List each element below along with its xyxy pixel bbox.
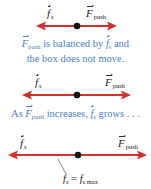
panel-1-friction-label: fs bbox=[47, 8, 54, 21]
caption-push-subscript: push bbox=[32, 113, 44, 120]
panel-2-friction-label: fs bbox=[35, 77, 42, 90]
force-diagrams bbox=[0, 0, 151, 189]
push-subscript: push bbox=[113, 82, 125, 89]
caption-friction-symbol: f bbox=[90, 108, 93, 120]
panel-3-max-friction-annotation: fs = fs max bbox=[63, 173, 98, 185]
panel-1-caption-line-2: the box does not move. bbox=[0, 53, 151, 65]
panel-3-arrows bbox=[8, 151, 147, 175]
caption-push-symbol: F bbox=[22, 38, 28, 50]
caption-push-subscript: push bbox=[28, 43, 40, 50]
panel-2-arrows bbox=[22, 91, 131, 100]
friction-symbol: f bbox=[47, 8, 50, 19]
friction-symbol: f bbox=[20, 138, 23, 149]
push-symbol: F bbox=[118, 138, 125, 149]
push-symbol: F bbox=[105, 77, 112, 88]
panel-1-push-label: Fpush bbox=[86, 8, 106, 21]
friction-subscript: s bbox=[39, 82, 42, 89]
push-symbol: F bbox=[86, 8, 93, 19]
panel-3-friction-label: fs bbox=[20, 138, 27, 151]
annotation-rhs-subscript: s max bbox=[83, 178, 98, 185]
panel-2-push-label: Fpush bbox=[105, 77, 125, 90]
caption-text: and bbox=[111, 38, 129, 49]
annotation-leader-line bbox=[58, 159, 66, 174]
caption-text: increases, bbox=[44, 108, 90, 119]
caption-push-symbol: F bbox=[25, 108, 31, 120]
panel-1-caption-line-1: Fpush is balanced by fs and bbox=[0, 38, 151, 53]
annotation-operator: = bbox=[68, 173, 79, 184]
caption-text: grows . . . bbox=[96, 108, 140, 119]
friction-subscript: s bbox=[24, 143, 27, 150]
push-subscript: push bbox=[126, 143, 138, 150]
caption-friction-symbol: f bbox=[106, 38, 109, 50]
friction-symbol: f bbox=[35, 77, 38, 88]
friction-subscript: s bbox=[51, 13, 54, 20]
caption-text: As bbox=[11, 108, 25, 119]
push-subscript: push bbox=[94, 13, 106, 20]
panel-1-arrows bbox=[36, 22, 117, 31]
box-dot-icon bbox=[75, 152, 82, 159]
box-dot-icon bbox=[74, 92, 81, 99]
box-dot-icon bbox=[74, 23, 81, 30]
panel-3-push-label: Fpush bbox=[118, 138, 138, 151]
panel-2-caption: As Fpush increases, fs grows . . . bbox=[0, 108, 151, 123]
caption-text: is balanced by bbox=[41, 38, 106, 49]
panel-1-caption: Fpush is balanced by fs and the box does… bbox=[0, 38, 151, 65]
